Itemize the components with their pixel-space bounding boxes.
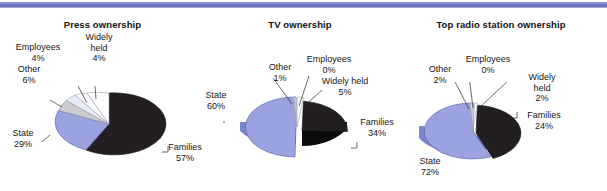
chart-tv-ownership: TV ownership [205,0,395,191]
pie-tv-slice-state [245,97,296,157]
pie-press [40,72,180,180]
label-radio-employees: Employees 0% [457,54,519,75]
label-radio-other: Other 2% [421,64,459,85]
label-tv-families: Families 34% [355,117,399,138]
label-radio-state: State 72% [409,156,451,177]
chart-title-radio: Top radio station ownership [395,19,607,30]
label-press-other: Other 6% [8,64,50,85]
label-tv-state: State 60% [195,90,237,111]
label-tv-other: Other 1% [261,62,299,83]
label-press-widely-held: Widely held 4% [76,32,122,64]
chart-press-ownership: Press ownership [0,0,205,191]
chart-title-press: Press ownership [0,19,205,30]
label-radio-widely-held: Widely held 2% [519,72,565,104]
label-radio-families: Families 24% [521,110,567,131]
label-press-state: State 29% [2,128,44,149]
label-tv-employees: Employees 0% [298,54,360,75]
label-tv-widely-held: Widely held 5% [310,76,380,97]
label-press-families: Families 57% [163,142,207,163]
label-press-employees: Employees 4% [6,42,70,63]
pie-tv-slice-families [302,101,348,131]
chart-title-tv: TV ownership [205,19,395,30]
chart-radio-ownership: Top radio station ownership [395,0,607,191]
